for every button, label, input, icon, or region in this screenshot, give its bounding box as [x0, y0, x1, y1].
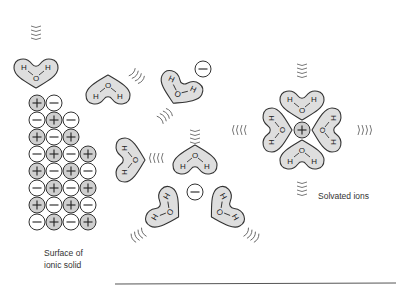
cation-icon: [46, 180, 62, 196]
vibration-waves-icon: [233, 125, 247, 135]
cation-icon: [63, 129, 79, 145]
anion-icon: [46, 197, 62, 213]
cation-icon: [63, 163, 79, 179]
anion-icon: [80, 163, 96, 179]
anion-icon: [195, 61, 211, 77]
surface-label-line1: Surface of: [44, 247, 83, 259]
vibration-waves-icon: [190, 130, 200, 144]
anion-icon: [29, 112, 45, 128]
cation-icon: [63, 197, 79, 213]
cation-icon: [294, 122, 310, 138]
anion-icon: [63, 180, 79, 196]
anion-icon: [29, 146, 45, 162]
anion-icon: [29, 214, 45, 230]
anion-icon: [46, 163, 62, 179]
water-molecule: [86, 75, 130, 104]
cation-icon: [29, 129, 45, 145]
dissolution-diagram: H H O H H O: [0, 0, 400, 287]
vibration-waves-icon: [129, 68, 146, 84]
vibration-waves-icon: [157, 107, 174, 123]
cation-icon: [29, 163, 45, 179]
cation-icon: [46, 146, 62, 162]
vibration-waves-icon: [150, 153, 164, 163]
water-molecule: [116, 138, 145, 182]
vibration-waves-icon: [31, 26, 41, 40]
cation-icon: [46, 214, 62, 230]
anion-icon: [80, 197, 96, 213]
vibration-waves-icon: [297, 64, 307, 78]
vibration-waves-icon: [358, 125, 372, 135]
divider-line: [115, 283, 396, 284]
solvated-ions-label: Solvated ions: [318, 190, 369, 202]
anion-icon: [63, 112, 79, 128]
cation-icon: [46, 112, 62, 128]
cation-icon: [80, 214, 96, 230]
cation-icon: [29, 95, 45, 111]
cation-icon: [80, 180, 96, 196]
vibration-waves-icon: [297, 182, 307, 196]
anion-icon: [46, 129, 62, 145]
solvated-anion-cluster: [130, 130, 260, 243]
anion-icon: [187, 184, 203, 200]
cation-icon: [29, 197, 45, 213]
surface-label-line2: ionic solid: [44, 259, 83, 271]
ionic-solid-surface: [29, 95, 96, 230]
water-molecule: [14, 59, 58, 88]
anion-icon: [29, 180, 45, 196]
cation-icon: [80, 146, 96, 162]
anion-icon: [46, 95, 62, 111]
anion-icon: [63, 146, 79, 162]
surface-label: Surface of ionic solid: [44, 247, 83, 271]
anion-icon: [63, 214, 79, 230]
solvated-cation-cluster: [233, 64, 372, 196]
